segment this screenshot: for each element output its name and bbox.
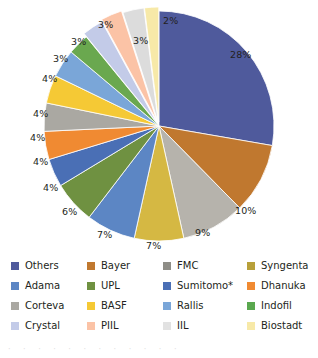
legend-item-syngenta: Syngenta [247, 256, 318, 276]
pie-slice-percent-label: 7% [97, 230, 112, 240]
legend-item-label: UPL [101, 281, 120, 291]
legend-swatch-icon [163, 302, 171, 310]
pie-slice-percent-label: 3% [71, 37, 86, 47]
legend-swatch-icon [163, 282, 171, 290]
legend-swatch-icon [87, 262, 95, 270]
pie-slice [159, 11, 274, 146]
pie-slice-percent-label: 6% [62, 207, 77, 217]
legend-swatch-icon [247, 262, 255, 270]
legend-swatch-icon [87, 302, 95, 310]
pie-slice-percent-label: 9% [195, 228, 210, 238]
legend-item-indofil: Indofil [247, 296, 318, 316]
chart-legend: OthersBayerFMCSyngentaAdamaUPLSumitomo*D… [0, 256, 318, 340]
legend-item-basf: BASF [87, 296, 163, 316]
legend-swatch-icon [247, 282, 255, 290]
pie-chart-svg [0, 0, 318, 252]
legend-item-label: FMC [177, 261, 198, 271]
legend-item-rallis: Rallis [163, 296, 247, 316]
legend-item-iil: IIL [163, 316, 247, 336]
pie-chart-plot-area: 28%10%9%7%7%6%4%4%4%4%4%3%3%3%3%2% [0, 0, 318, 252]
legend-item-corteva: Corteva [11, 296, 87, 316]
legend-item-adama: Adama [11, 276, 87, 296]
legend-item-label: Biostadt [261, 321, 302, 331]
legend-item-label: Sumitomo* [177, 281, 233, 291]
legend-item-label: BASF [101, 301, 127, 311]
legend-item-fmc: FMC [163, 256, 247, 276]
legend-item-dhanuka: Dhanuka [247, 276, 318, 296]
legend-item-label: PIIL [101, 321, 119, 331]
legend-item-sumitomo: Sumitomo* [163, 276, 247, 296]
legend-item-label: Corteva [25, 301, 64, 311]
legend-item-label: Adama [25, 281, 60, 291]
pie-slice-percent-label: 4% [33, 157, 48, 167]
legend-item-label: IIL [177, 321, 188, 331]
legend-swatch-icon [87, 282, 95, 290]
legend-item-crystal: Crystal [11, 316, 87, 336]
legend-swatch-icon [11, 302, 19, 310]
legend-item-biostadt: Biostadt [247, 316, 318, 336]
legend-swatch-icon [11, 282, 19, 290]
legend-item-piil: PIIL [87, 316, 163, 336]
legend-swatch-icon [163, 322, 171, 330]
legend-swatch-icon [87, 322, 95, 330]
legend-item-label: Dhanuka [261, 281, 306, 291]
legend-swatch-icon [11, 262, 19, 270]
legend-item-label: Rallis [177, 301, 203, 311]
pie-slice-percent-label: 2% [163, 16, 178, 26]
pie-chart-figure: 28%10%9%7%7%6%4%4%4%4%4%3%3%3%3%2% Other… [0, 0, 318, 358]
pie-slice-percent-label: 4% [43, 183, 58, 193]
legend-item-others: Others [11, 256, 87, 276]
pie-slice-percent-label: 3% [98, 20, 113, 30]
pie-slice-percent-label: 3% [133, 36, 148, 46]
legend-item-bayer: Bayer [87, 256, 163, 276]
legend-item-label: Crystal [25, 321, 60, 331]
legend-swatch-icon [247, 322, 255, 330]
legend-item-label: Bayer [101, 261, 130, 271]
legend-swatch-icon [163, 262, 171, 270]
pie-slice-percent-label: 4% [33, 109, 48, 119]
pie-slice-percent-label: 3% [53, 54, 68, 64]
legend-item-upl: UPL [87, 276, 163, 296]
legend-item-label: Others [25, 261, 59, 271]
pie-slice-percent-label: 4% [30, 133, 45, 143]
pie-slice-percent-label: 4% [42, 74, 57, 84]
legend-item-label: Syngenta [261, 261, 309, 271]
legend-swatch-icon [11, 322, 19, 330]
pie-slice-percent-label: 7% [146, 241, 161, 251]
legend-swatch-icon [247, 302, 255, 310]
legend-item-label: Indofil [261, 301, 292, 311]
page-bottom-artifact: · · · · · · · · · · · · [8, 345, 310, 354]
pie-slice-percent-label: 28% [230, 50, 251, 60]
pie-slice-percent-label: 10% [235, 206, 256, 216]
